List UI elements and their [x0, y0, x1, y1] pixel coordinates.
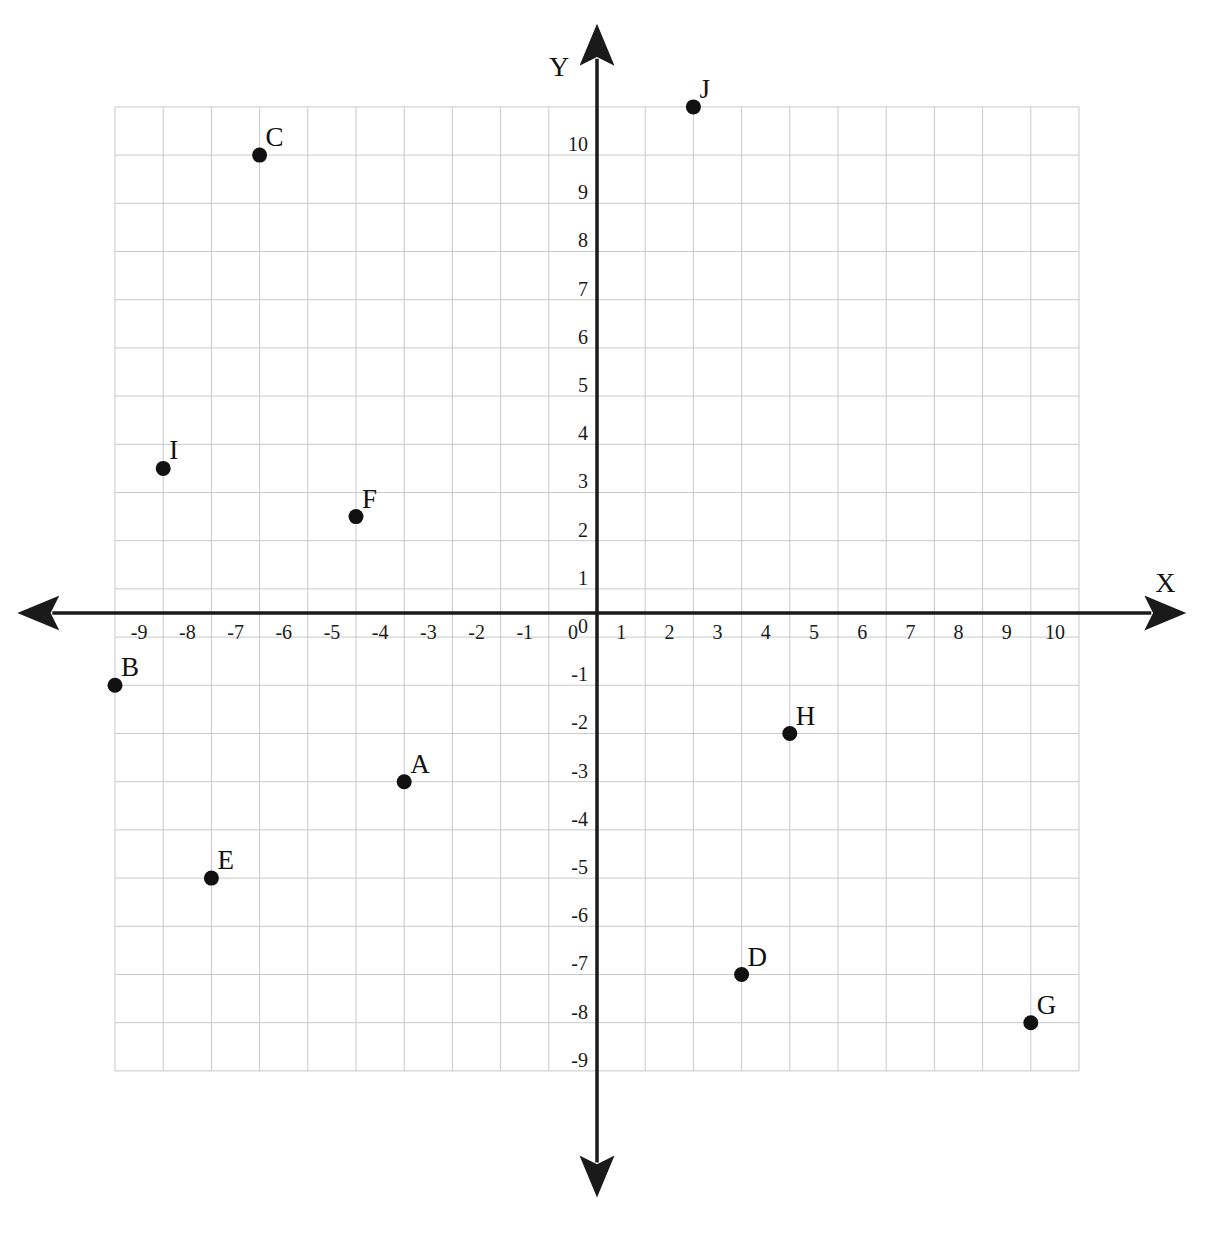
x-tick-label: 0 [568, 622, 578, 642]
y-tick-label: -4 [571, 809, 588, 829]
y-tick-label: 4 [578, 423, 588, 443]
y-tick-label: -6 [571, 905, 588, 925]
y-axis-label: Y [549, 53, 569, 81]
x-tick-label: 8 [954, 622, 964, 642]
x-tick-label: 9 [1002, 622, 1012, 642]
point-label-i: I [169, 437, 178, 464]
x-tick-label: 7 [905, 622, 915, 642]
y-tick-label: -9 [571, 1050, 588, 1070]
x-tick-label: -8 [179, 622, 196, 642]
x-tick-label: -7 [227, 622, 244, 642]
y-tick-label: -2 [571, 712, 588, 732]
y-tick-label: 5 [578, 375, 588, 395]
x-tick-label: -4 [372, 622, 389, 642]
x-tick-label: -2 [468, 622, 485, 642]
y-tick-label: 1 [578, 568, 588, 588]
y-tick-label: 0 [578, 616, 588, 636]
y-tick-label: 6 [578, 327, 588, 347]
point-label-d: D [748, 944, 768, 971]
point-label-a: A [410, 751, 430, 778]
y-tick-label: -1 [571, 664, 588, 684]
x-tick-label: 5 [809, 622, 819, 642]
x-tick-label: 6 [857, 622, 867, 642]
axis-lines [52, 59, 1151, 1163]
y-tick-label: -5 [571, 857, 588, 877]
point-label-c: C [266, 124, 284, 151]
point-label-g: G [1037, 992, 1057, 1019]
x-tick-label: -9 [131, 622, 148, 642]
y-tick-label: -3 [571, 761, 588, 781]
y-tick-label: 7 [578, 279, 588, 299]
point-label-e: E [217, 847, 234, 874]
x-tick-label: -3 [420, 622, 437, 642]
x-tick-label: 2 [664, 622, 674, 642]
y-tick-label: 2 [578, 520, 588, 540]
x-tick-label: -5 [324, 622, 341, 642]
x-tick-label: 1 [616, 622, 626, 642]
x-tick-label: -1 [516, 622, 533, 642]
y-tick-label: -7 [571, 953, 588, 973]
y-tick-label: -8 [571, 1002, 588, 1022]
point-label-j: J [699, 76, 710, 103]
point-label-f: F [362, 486, 377, 513]
point-label-h: H [796, 703, 816, 730]
y-tick-label: 8 [578, 230, 588, 250]
coordinate-plane-graph: -9-8-7-6-5-4-3-2-1012345678910 109876543… [0, 0, 1206, 1242]
y-tick-label: 3 [578, 471, 588, 491]
x-axis-label: X [1155, 569, 1175, 597]
x-tick-label: 3 [713, 622, 723, 642]
x-tick-label: 10 [1045, 622, 1065, 642]
y-tick-label: 9 [578, 182, 588, 202]
data-points [108, 99, 1039, 1030]
point-label-b: B [121, 654, 139, 681]
x-tick-label: -6 [275, 622, 292, 642]
x-tick-label: 4 [761, 622, 771, 642]
y-tick-label: 10 [568, 134, 588, 154]
